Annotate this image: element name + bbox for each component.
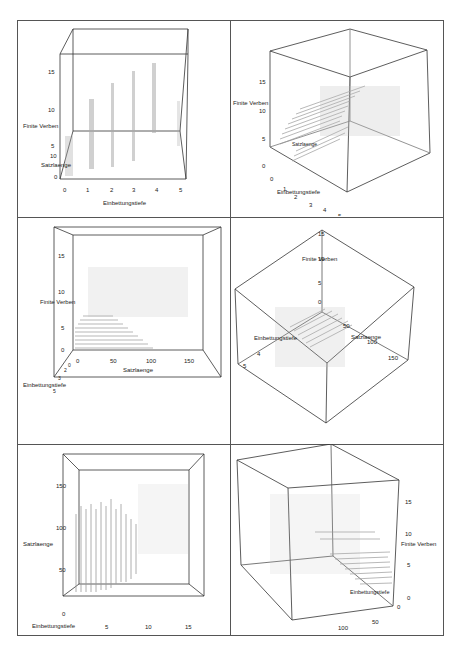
z-tick: 5 [318, 280, 322, 286]
x-tick: 4 [155, 187, 159, 193]
z-tick: 150 [56, 483, 67, 489]
x-tick: 0 [63, 187, 67, 193]
z-tick: 15 [259, 79, 266, 85]
z-axis-label: Satzlaenge [23, 541, 54, 547]
z-tick: 0 [407, 595, 411, 601]
plot-panel-1: 15 10 5 10 0 0 1 2 3 4 5 Finite Verben S… [18, 21, 229, 216]
x-tick: 150 [184, 358, 195, 364]
z-tick: 5 [61, 325, 65, 331]
z-axis-label: Finite Verben [401, 541, 436, 547]
z-tick: 0 [61, 347, 65, 353]
z-tick: 15 [48, 69, 55, 75]
x-tick: 0 [397, 604, 401, 610]
x-tick: 150 [304, 634, 315, 635]
plot-panel-2: 15 10 5 0 0 1 2 3 4 5 Finite Verben Einb… [230, 21, 443, 216]
scatter3d-chart: 15 10 5 0 0 50 100 150 Finite Verben Sat… [230, 444, 443, 635]
scatter3d-chart: 15 10 5 0 0 50 100 150 0 2 3 5 Finite Ve… [18, 217, 229, 443]
z-tick: 0 [318, 299, 322, 305]
x-tick: 15 [185, 624, 192, 630]
x-tick: 5 [105, 624, 109, 630]
y-axis-label: Satzlaenge [351, 334, 382, 340]
x-axis-label: Satzlaenge [123, 367, 154, 373]
z-tick: 15 [405, 499, 412, 505]
data-points [76, 499, 136, 592]
z-tick: 100 [56, 525, 67, 531]
x-tick: 2 [110, 187, 114, 193]
y-axis-label: Satzlaenge [41, 162, 72, 168]
inner-axis-label: Satzlaenge [292, 141, 317, 147]
x-tick: 10 [145, 624, 152, 630]
plot-panel-3: 15 10 5 0 0 50 100 150 0 2 3 5 Finite Ve… [18, 217, 229, 443]
plot-panel-4: 15 10 5 0 50 100 150 4 5 Finite Verben E… [230, 217, 443, 443]
x-tick: 5 [179, 187, 183, 193]
z-axis-label: Finite Verben [23, 123, 58, 129]
y-tick: 50 [343, 323, 350, 329]
scatter3d-chart: 15 10 5 0 50 100 150 4 5 Finite Verben E… [230, 217, 443, 443]
z-axis-label: Finite Verben [40, 299, 75, 305]
x-tick: 5 [338, 213, 342, 216]
y-tick: 3 [58, 375, 61, 381]
scatter3d-chart: 15 10 5 10 0 0 1 2 3 4 5 Finite Verben S… [18, 21, 229, 216]
z-axis-label: Finite Verben [302, 256, 337, 262]
y-axis-label: Einbettungstiefe [23, 382, 67, 388]
z-tick: 0 [62, 611, 66, 617]
plot-panel-5: 150 100 50 0 5 10 15 Satzlaenge Finite V… [18, 444, 229, 635]
x-tick: 100 [338, 625, 349, 631]
data-points [75, 316, 153, 348]
y-tick: 10 [50, 153, 57, 159]
z-tick: 5 [262, 136, 266, 142]
x-tick: 50 [372, 619, 379, 625]
scatter3d-chart: 150 100 50 0 5 10 15 Satzlaenge Finite V… [18, 444, 229, 635]
x-tick: 3 [132, 187, 136, 193]
z-tick: 15 [318, 231, 325, 237]
z-tick: 15 [58, 253, 65, 259]
z-tick: 0 [262, 163, 266, 169]
x-tick: 5 [243, 363, 247, 369]
x-axis-label: Einbettungstiefe [103, 200, 147, 206]
y-tick: 0 [68, 362, 71, 368]
z-tick: 5 [407, 562, 411, 568]
y-tick: 0 [54, 174, 58, 180]
x-tick: 0 [76, 358, 80, 364]
z-tick: 10 [48, 107, 55, 113]
x-tick: 50 [110, 358, 117, 364]
x-tick: 4 [323, 207, 327, 213]
x-tick: 100 [146, 358, 157, 364]
x-tick: 1 [86, 187, 90, 193]
z-tick: 10 [58, 289, 65, 295]
z-tick: 10 [405, 531, 412, 537]
y-axis-label: Einbettungstiefe [32, 623, 76, 629]
z-tick: 5 [51, 143, 55, 149]
data-points [65, 63, 180, 176]
x-tick: 0 [270, 176, 274, 182]
z-tick: 10 [259, 108, 266, 114]
x-axis-label: Einbettungstiefe [254, 335, 298, 341]
scatter3d-chart: 15 10 5 0 0 1 2 3 4 5 Finite Verben Einb… [230, 21, 443, 216]
x-tick: 3 [309, 202, 313, 208]
y-tick: 5 [53, 388, 56, 394]
z-tick: 50 [59, 567, 66, 573]
z-axis-label: Finite Verben [233, 100, 268, 106]
x-tick: 4 [257, 351, 261, 357]
inner-axis-label: Einbettungstiefe [350, 589, 389, 595]
plot-panel-6: 15 10 5 0 0 50 100 150 Finite Verben Sat… [230, 444, 443, 635]
y-tick: 150 [388, 355, 399, 361]
x-axis-label: Einbettungstiefe [277, 189, 321, 195]
y-tick: 2 [64, 367, 67, 373]
